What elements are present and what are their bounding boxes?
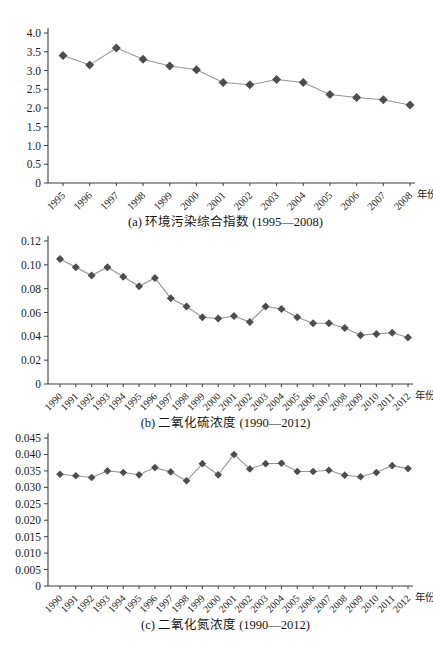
y-axis-labels: 0.120.100.080.060.040.020: [21, 235, 48, 390]
data-point-marker: [183, 303, 191, 311]
data-point-marker: [103, 263, 111, 271]
data-point-marker: [406, 101, 415, 110]
x-axis-unit-label: 年份: [415, 591, 433, 603]
data-point-marker: [119, 273, 127, 281]
y-tick-label: 0.035: [15, 465, 41, 477]
y-tick-label: 1.5: [27, 121, 42, 133]
x-axis-unit-label: 年份: [417, 188, 433, 200]
data-point-marker: [88, 474, 96, 482]
x-tick-label: 2001: [205, 190, 228, 213]
series-line: [60, 454, 408, 480]
axes: [48, 433, 413, 586]
data-point-marker: [245, 80, 254, 89]
y-tick-label: 0.04: [21, 330, 41, 342]
y-tick-label: 0.045: [15, 432, 41, 444]
data-point-marker: [299, 78, 308, 87]
data-point-marker: [219, 78, 228, 87]
data-point-marker: [151, 464, 159, 472]
data-point-marker: [404, 465, 412, 473]
data-point-marker: [192, 65, 201, 74]
data-point-marker: [379, 95, 388, 104]
x-axis-labels: 1990199119921993199419951996199719981999…: [42, 384, 412, 413]
x-tick-label: 2002: [232, 190, 255, 213]
chart-c-caption: (c) 二氧化氮浓度 (1990—2012): [0, 617, 433, 635]
data-point-marker: [325, 466, 333, 474]
y-tick-label: 4.0: [27, 27, 42, 39]
axes: [48, 28, 415, 183]
y-tick-label: 0.005: [15, 564, 41, 576]
chart-b-block: 0.120.100.080.060.040.020199019911992199…: [0, 232, 433, 433]
chart-a-caption: (a) 环境污染综合指数 (1995—2008): [0, 214, 433, 232]
data-point-marker: [112, 44, 121, 53]
x-tick-label: 2006: [338, 190, 361, 213]
chart-c-plot: 0.0450.0400.0350.0300.0250.0200.0150.010…: [0, 433, 433, 617]
x-axis-labels: 1995199619971998199920002001200220032004…: [45, 183, 415, 212]
x-tick-label: 2007: [365, 190, 388, 213]
data-point-marker: [262, 460, 270, 468]
data-point-marker: [56, 470, 64, 478]
x-tick-label: 2005: [312, 190, 335, 213]
data-point-marker: [135, 282, 143, 290]
x-axis-unit-label: 年份: [415, 389, 433, 401]
data-point-marker: [56, 255, 64, 263]
data-point-marker: [278, 460, 286, 468]
series-markers: [56, 255, 412, 342]
y-axis-labels: 4.03.53.02.52.01.51.00.50: [27, 27, 48, 189]
page: 4.03.53.02.52.01.51.00.50199519961997199…: [0, 0, 433, 648]
y-tick-label: 0: [35, 177, 41, 189]
y-tick-label: 0: [35, 580, 41, 592]
y-tick-label: 0.040: [15, 448, 41, 460]
data-point-marker: [72, 263, 80, 271]
x-tick-label: 1998: [125, 190, 148, 213]
x-tick-label: 1999: [152, 190, 175, 213]
data-point-marker: [198, 313, 206, 321]
y-tick-label: 3.5: [27, 46, 42, 58]
data-point-marker: [139, 55, 148, 64]
data-point-marker: [388, 329, 396, 337]
x-axis-labels: 1990199119921993199419951996199719981999…: [42, 586, 412, 615]
data-point-marker: [230, 312, 238, 320]
y-tick-label: 0.030: [15, 481, 41, 493]
y-tick-label: 2.5: [27, 83, 42, 95]
data-point-marker: [165, 62, 174, 71]
data-point-marker: [341, 471, 349, 479]
y-tick-label: 0: [35, 378, 41, 390]
data-point-marker: [214, 314, 222, 322]
data-point-marker: [309, 468, 317, 476]
chart-a-block: 4.03.53.02.52.01.51.00.50199519961997199…: [0, 0, 433, 232]
data-point-marker: [309, 319, 317, 327]
data-point-marker: [352, 93, 361, 102]
data-point-marker: [325, 319, 333, 327]
y-axis-labels: 0.0450.0400.0350.0300.0250.0200.0150.010…: [15, 432, 48, 592]
data-point-marker: [357, 473, 365, 481]
data-point-marker: [167, 468, 175, 476]
chart-c-block: 0.0450.0400.0350.0300.0250.0200.0150.010…: [0, 433, 433, 635]
x-tick-label: 2008: [392, 190, 415, 213]
data-point-marker: [104, 467, 112, 475]
y-tick-label: 2.0: [27, 102, 42, 114]
data-point-marker: [85, 60, 94, 69]
y-tick-label: 0.06: [21, 307, 41, 319]
y-tick-label: 0.5: [27, 158, 42, 170]
data-point-marker: [135, 471, 143, 479]
data-point-marker: [325, 90, 334, 99]
data-point-marker: [293, 313, 301, 321]
data-point-marker: [388, 462, 396, 470]
x-tick-label: 2003: [258, 190, 281, 213]
y-tick-label: 0.10: [21, 259, 41, 271]
x-tick-label: 2012: [390, 593, 412, 615]
y-tick-label: 1.0: [27, 140, 42, 152]
y-tick-label: 0.08: [21, 283, 41, 295]
y-tick-label: 0.010: [15, 547, 41, 559]
data-point-marker: [272, 75, 281, 84]
x-tick-label: 1995: [45, 190, 68, 213]
series-markers: [59, 44, 415, 110]
chart-a-plot: 4.03.53.02.52.01.51.00.50199519961997199…: [0, 8, 433, 214]
series-markers: [56, 451, 412, 485]
data-point-marker: [88, 272, 96, 280]
data-point-marker: [72, 472, 80, 480]
y-tick-label: 0.02: [21, 354, 41, 366]
x-tick-label: 1997: [98, 190, 121, 213]
data-point-marker: [373, 469, 381, 477]
x-tick-label: 2012: [390, 391, 412, 413]
